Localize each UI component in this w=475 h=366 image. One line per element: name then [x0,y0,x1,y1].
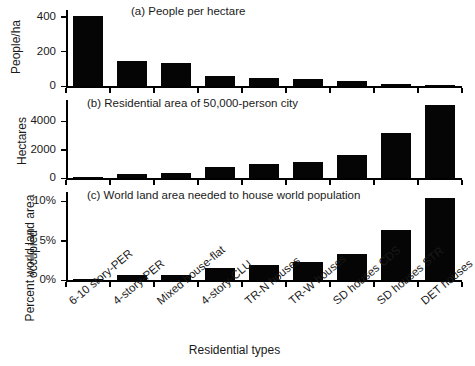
bar [293,79,324,86]
x-axis-title: Residential types [0,344,469,356]
panel-a-plot-area: 0200400 [66,10,462,88]
panel-c-plot-area: 0%5%10% [66,192,462,282]
plot-c-xtick-5 [285,282,287,287]
plot-b-xtick-5 [285,180,287,185]
panel-b-y-axis-label: Hectares [16,101,28,181]
bar [205,167,236,178]
plot-a-ytick-0: 0 [61,86,67,88]
bar [161,173,192,178]
plot-c-xtick-4 [241,282,243,287]
plot-a-ytick-1: 200 [61,51,67,53]
bar [425,85,456,86]
panel-b-plot-area: 020004000 [66,100,462,180]
plot-a-xtick-9 [461,88,463,93]
panel-b-bars [66,100,462,178]
plot-b-ytick-0: 0 [61,178,67,180]
plot-c-xtick-6 [329,282,331,287]
plot-a-ytick-2: 400 [61,16,67,18]
panel-b-x-axis [66,178,462,180]
plot-b-ytick-label-0: 0 [50,173,56,185]
plot-c-xtick-3 [197,282,199,287]
plot-a-ytick-label-1: 200 [37,46,56,58]
plot-a-xtick-1 [109,88,111,93]
bar [73,16,104,86]
plot-c-xtick-9 [461,282,463,287]
bar [293,162,324,179]
bar [381,84,412,86]
panel-c-bars [66,192,462,280]
plot-b-xtick-4 [241,180,243,185]
plot-a-ytick-label-0: 0 [50,81,56,93]
plot-c-ytick-label-2: 10% [33,196,56,208]
plot-c-xtick-1 [109,282,111,287]
panel-a-x-axis [66,86,462,88]
plot-b-xtick-7 [373,180,375,185]
bar [205,76,236,87]
bar [425,105,456,178]
bar [73,177,104,179]
plot-a-ytick-label-2: 400 [37,11,56,23]
plot-b-ytick-label-2: 4000 [30,116,56,128]
bar [337,81,368,86]
plot-c-xtick-8 [417,282,419,287]
plot-c-xtick-7 [373,282,375,287]
plot-a-xtick-5 [285,88,287,93]
plot-b-xtick-3 [197,180,199,185]
bar [161,63,192,86]
panel-c-y-axis-label-line2: occupied [27,214,39,294]
bar [249,78,280,87]
plot-b-xtick-2 [153,180,155,185]
panel-a-bars [66,10,462,86]
plot-b-xtick-8 [417,180,419,185]
plot-c-ytick-label-0: 0% [39,275,56,287]
plot-b-ytick-2: 4000 [61,121,67,123]
panel-a-y-axis-label: People/ha [10,7,22,87]
bar [117,174,148,179]
plot-b-xtick-0 [65,180,67,185]
panel-residential-area: Hectares (b) Residential area of 50,000-… [0,98,469,186]
plot-a-xtick-7 [373,88,375,93]
plot-a-xtick-2 [153,88,155,93]
bar [249,164,280,178]
bar [337,155,368,179]
plot-c-xtick-0 [65,282,67,287]
plot-c-ytick-1: 5% [61,240,67,242]
plot-c-ytick-label-1: 5% [39,235,56,247]
plot-a-xtick-0 [65,88,67,93]
plot-b-xtick-6 [329,180,331,185]
plot-a-xtick-6 [329,88,331,93]
plot-b-ytick-1: 2000 [61,149,67,151]
plot-b-ytick-label-1: 2000 [30,144,56,156]
plot-b-xtick-1 [109,180,111,185]
bar [381,133,412,179]
plot-a-xtick-3 [197,88,199,93]
plot-c-ytick-0: 0% [61,280,67,282]
x-axis-title-text: Residential types [189,344,280,356]
plot-c-xtick-2 [153,282,155,287]
plot-a-xtick-4 [241,88,243,93]
plot-b-xtick-9 [461,180,463,185]
plot-a-xtick-8 [417,88,419,93]
panel-people-per-hectare: People/ha (a) People per hectare 0200400 [0,6,469,90]
bar [117,61,148,87]
plot-c-ytick-2: 10% [61,201,67,203]
